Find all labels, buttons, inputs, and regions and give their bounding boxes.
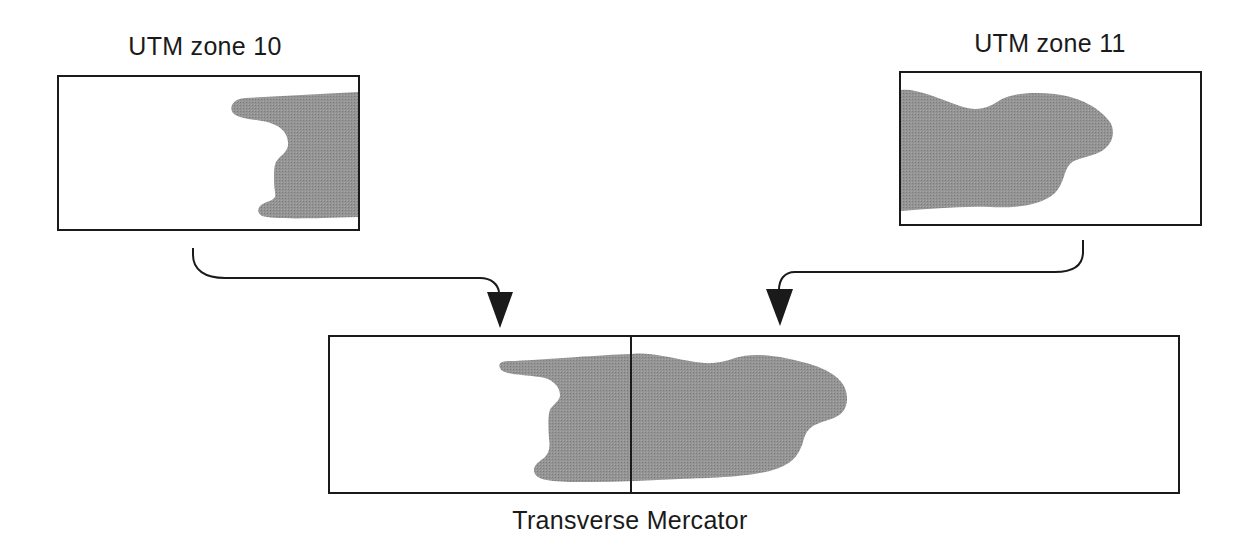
arrow-zone11-connector — [779, 240, 1083, 290]
arrow-zone10-connector — [193, 248, 499, 292]
zone11-map — [900, 72, 1201, 225]
merged-map — [329, 336, 1179, 493]
diagram-canvas — [0, 0, 1245, 553]
arrow-zone10-to-merged — [193, 248, 513, 328]
arrow-zone11-to-merged — [766, 240, 1083, 326]
merged-landmass — [499, 354, 847, 482]
arrowhead-down-icon — [487, 292, 513, 328]
zone10-landmass — [231, 92, 358, 218]
zone10-map — [58, 76, 359, 230]
zone11-landmass — [901, 90, 1113, 211]
arrowhead-down-icon — [766, 289, 793, 326]
